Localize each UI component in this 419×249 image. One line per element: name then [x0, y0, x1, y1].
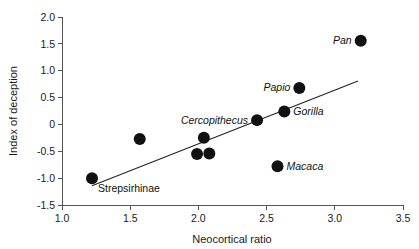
- data-point: [293, 82, 305, 94]
- data-point: [355, 35, 367, 47]
- chart-canvas: 2.01.51.00.50-0.5-1.0-1.5 1.01.52.02.53.…: [0, 0, 419, 249]
- y-tick-label: 1.5: [40, 38, 55, 50]
- x-axis-ticks: 1.01.52.02.53.03.5: [55, 205, 411, 224]
- data-point: [203, 147, 215, 159]
- data-point-label: Cercopithecus: [181, 114, 249, 126]
- x-tick-label: 2.5: [259, 212, 274, 224]
- y-axis-ticks: 2.01.51.00.50-0.5-1.0-1.5: [37, 11, 62, 211]
- x-tick-label: 3.5: [396, 212, 411, 224]
- x-tick-label: 1.5: [123, 212, 138, 224]
- y-axis-title: Index of deception: [7, 66, 19, 156]
- data-points-group: [86, 35, 367, 185]
- data-point-labels-group: StrepsirhinaeCercopithecusGorillaPapioMa…: [98, 34, 352, 194]
- y-tick-label: 0: [49, 118, 55, 130]
- x-axis-title: Neocortical ratio: [192, 233, 271, 245]
- data-point-label: Strepsirhinae: [98, 182, 160, 194]
- y-tick-label: -1.0: [37, 172, 55, 184]
- data-point: [191, 148, 203, 160]
- y-tick-label: 1.0: [40, 64, 55, 76]
- data-point: [198, 132, 210, 144]
- data-point: [251, 114, 263, 126]
- x-tick-label: 2.0: [191, 212, 206, 224]
- data-point-label: Gorilla: [293, 105, 324, 117]
- data-point-label: Pan: [333, 34, 352, 46]
- data-point: [134, 133, 146, 145]
- scatter-chart-figure: 2.01.51.00.50-0.5-1.0-1.5 1.01.52.02.53.…: [0, 0, 419, 249]
- y-tick-label: -1.5: [37, 199, 55, 211]
- y-tick-label: -0.5: [37, 145, 55, 157]
- x-tick-label: 3.0: [327, 212, 342, 224]
- x-tick-label: 1.0: [55, 212, 70, 224]
- data-point: [272, 160, 284, 172]
- data-point-label: Macaca: [287, 160, 324, 172]
- data-point: [86, 172, 98, 184]
- data-point: [278, 106, 290, 118]
- data-point-label: Papio: [263, 81, 290, 93]
- y-tick-label: 2.0: [40, 11, 55, 23]
- y-tick-label: 0.5: [40, 91, 55, 103]
